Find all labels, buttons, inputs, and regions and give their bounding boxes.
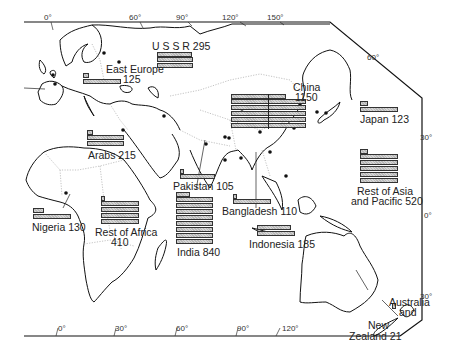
lon-top-90: 90° bbox=[176, 14, 188, 22]
label-india: India 840 bbox=[177, 247, 220, 258]
lat-right-0: 0° bbox=[424, 212, 432, 220]
lon-bottom-0: 0° bbox=[58, 325, 66, 333]
bar-pakistan bbox=[180, 169, 215, 179]
bar-nigeria bbox=[33, 208, 71, 220]
lon-top-120: 120° bbox=[222, 14, 239, 22]
label-australia-line2: and bbox=[399, 307, 417, 318]
australia-coast bbox=[300, 232, 414, 336]
label-rest-of-asia-line2: and Pacific 520 bbox=[351, 196, 423, 207]
label-ussr: U S S R 295 bbox=[152, 41, 210, 52]
label-new-zealand-line2: Zealand 21 bbox=[349, 331, 402, 342]
label-rest-of-africa-value: 410 bbox=[111, 237, 129, 248]
label-pakistan: Pakistan 105 bbox=[173, 181, 234, 192]
bar-india bbox=[176, 192, 213, 245]
lat-right-60n: 60° bbox=[367, 54, 379, 62]
lon-top-0: 0° bbox=[44, 14, 52, 22]
bar-rest-of-africa bbox=[101, 196, 139, 225]
label-indonesia: Indonesia 185 bbox=[249, 239, 315, 250]
bar-rest-of-asia bbox=[360, 149, 398, 184]
label-bangladesh: Bangladesh 110 bbox=[222, 206, 297, 217]
lat-right-30s: 30° bbox=[420, 293, 432, 301]
lon-top-60: 60° bbox=[129, 14, 141, 22]
bar-arabs bbox=[87, 130, 124, 148]
lon-bottom-60: 60° bbox=[176, 325, 188, 333]
label-arabs: Arabs 215 bbox=[88, 150, 136, 161]
label-china-value: 1150 bbox=[295, 92, 318, 103]
lat-right-30n: 30° bbox=[420, 134, 432, 142]
lon-bottom-30: 30° bbox=[115, 325, 127, 333]
label-japan: Japan 123 bbox=[360, 114, 409, 125]
lon-top-150: 150° bbox=[267, 14, 284, 22]
bar-japan bbox=[360, 101, 398, 113]
label-nigeria: Nigeria 130 bbox=[32, 222, 86, 233]
bar-bangladesh bbox=[233, 194, 271, 204]
label-east-europe-value: 125 bbox=[123, 74, 141, 85]
bar-indonesia bbox=[257, 225, 295, 237]
lon-bottom-90: 90° bbox=[237, 325, 249, 333]
lon-bottom-120: 120° bbox=[282, 325, 299, 333]
